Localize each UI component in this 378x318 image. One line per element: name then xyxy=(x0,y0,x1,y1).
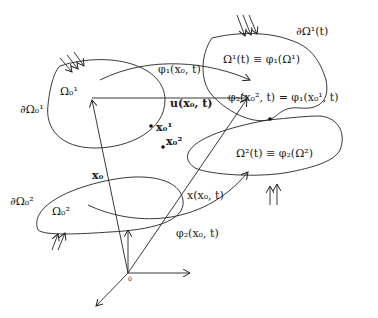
boundary1-ref-label: ∂Ω₀¹ xyxy=(20,104,44,115)
contact-point xyxy=(268,117,272,121)
omega2-ref-label: Ω₀² xyxy=(52,206,70,217)
x-current-vector xyxy=(128,99,247,273)
omega2-current-label: Ω²(t) ≡ φ₂(Ω²) xyxy=(236,148,313,159)
diagram-drawing xyxy=(0,0,378,318)
body1-current-boundary xyxy=(203,34,327,121)
point-x01-label: x₀¹ xyxy=(156,122,172,133)
body1-reference-boundary xyxy=(48,60,165,148)
contact-mechanics-diagram: Ω₀¹ ∂Ω₀¹ φ₁(x₀, t) u(x₀, t) x₀¹ x₀² x₀ ∂… xyxy=(0,0,378,318)
omega1-current-label: Ω¹(t) ≡ φ₁(Ω¹) xyxy=(223,54,300,65)
boundary2-ref-label: ∂Ω₀² xyxy=(10,196,34,207)
boundary1-current-label: ∂Ω¹(t) xyxy=(296,26,328,37)
omega1-ref-label: Ω₀¹ xyxy=(60,86,78,97)
contact-condition-label: φ₂(x₀², t) = φ₁(x₀¹, t) xyxy=(228,92,338,103)
displacement-label: u(x₀, t) xyxy=(170,98,213,109)
point-x02-label: x₀² xyxy=(166,136,182,147)
point-x01 xyxy=(149,124,153,128)
phi1-label: φ₁(x₀, t) xyxy=(158,64,201,75)
axis-y xyxy=(96,273,128,306)
x0-label: x₀ xyxy=(92,170,103,181)
x0-vector xyxy=(92,100,128,273)
position-current-label: x(x₀, t) xyxy=(187,190,224,201)
origin-label: 0 xyxy=(128,276,132,282)
phi2-label: φ₂(x₀, t) xyxy=(176,228,219,239)
point-x02 xyxy=(161,145,165,149)
body2-current-boundary xyxy=(187,116,342,175)
